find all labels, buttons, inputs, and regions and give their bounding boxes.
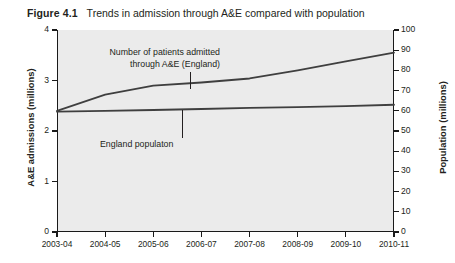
y-axis-right-tick-label: 90 (401, 44, 411, 54)
figure-caption: Trends in admission through A&E compared… (87, 7, 365, 19)
annotation-population-leader-line (182, 110, 183, 138)
x-axis-tick-label: 2009-10 (322, 239, 370, 249)
x-axis-tick-mark (153, 232, 154, 237)
y-axis-right-tick-label: 30 (401, 165, 411, 175)
y-axis-right-tick-mark (394, 211, 399, 212)
y-axis-right-tick-label: 100 (401, 24, 415, 34)
x-axis-tick-label: 2006-07 (177, 239, 225, 249)
x-axis-tick-mark (201, 232, 202, 237)
y-axis-left-title: A&E admissions (millions) (25, 48, 36, 208)
y-axis-right-tick-label: 20 (401, 186, 411, 196)
x-axis-tick-label: 2003-04 (33, 239, 81, 249)
y-axis-right-tick-mark (394, 191, 399, 192)
x-axis-tick-label: 2007-08 (226, 239, 274, 249)
annotation-admissions: Number of patients admitted through A&E … (66, 46, 220, 70)
y-axis-right-tick-mark (394, 110, 399, 111)
figure-title: Figure 4.1Trends in admission through A&… (27, 7, 365, 19)
x-axis-tick-label: 2010-11 (370, 239, 418, 249)
y-axis-right-title: Population (millions) (437, 48, 448, 208)
annotation-admissions-leader-line (190, 72, 191, 89)
x-axis-tick-label: 2004-05 (81, 239, 129, 249)
y-axis-right-tick-mark (394, 90, 399, 91)
y-axis-right-tick-label: 40 (401, 145, 411, 155)
x-axis-tick-label: 2008-09 (274, 239, 322, 249)
y-axis-right-tick-label: 60 (401, 105, 411, 115)
x-axis-tick-mark (249, 232, 250, 237)
y-axis-right-tick-label: 50 (401, 125, 411, 135)
y-axis-right-tick-mark (394, 151, 399, 152)
y-axis-right-tick-label: 70 (401, 85, 411, 95)
x-axis-tick-label: 2005-06 (129, 239, 177, 249)
annotation-population: England populaton (100, 138, 173, 150)
x-axis-tick-mark (345, 232, 346, 237)
annotation-admissions-line2: through A&E (England) (66, 58, 220, 70)
x-axis-tick-mark (297, 232, 298, 237)
y-axis-left-tick-label: 0 (44, 226, 49, 236)
y-axis-left-tick-label: 2 (44, 125, 49, 135)
y-axis-left-tick-label: 3 (44, 75, 49, 85)
x-axis-tick-mark (105, 232, 106, 237)
y-axis-right-tick-label: 10 (401, 206, 411, 216)
y-axis-right-tick-label: 80 (401, 64, 411, 74)
y-axis-right-tick-mark (394, 50, 399, 51)
y-axis-right-tick-mark (394, 130, 399, 131)
figure-number: Figure 4.1 (27, 7, 78, 19)
y-axis-right-tick-mark (394, 29, 399, 30)
x-axis-tick-mark (56, 232, 57, 237)
annotation-admissions-line1: Number of patients admitted (66, 46, 220, 58)
y-axis-right-tick-mark (394, 171, 399, 172)
y-axis-right-tick-mark (394, 231, 399, 232)
figure-container: Figure 4.1Trends in admission through A&… (0, 0, 455, 263)
y-axis-left-tick-label: 1 (44, 176, 49, 186)
x-axis-tick-mark (393, 232, 394, 237)
y-axis-right-tick-label: 0 (401, 226, 406, 236)
series-line (57, 105, 394, 112)
y-axis-right-tick-mark (394, 70, 399, 71)
y-axis-left-tick-label: 4 (44, 24, 49, 34)
